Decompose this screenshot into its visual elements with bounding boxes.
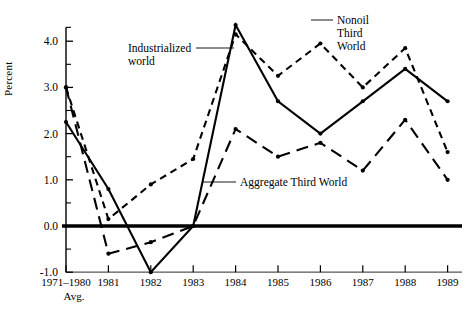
data-point bbox=[403, 118, 407, 122]
x-tick-label: 1985 bbox=[267, 276, 290, 288]
data-point bbox=[276, 74, 280, 78]
x-tick-label: 1982 bbox=[140, 276, 162, 288]
data-point bbox=[234, 127, 238, 131]
data-point bbox=[149, 270, 153, 274]
y-tick-label: 3.0 bbox=[44, 81, 59, 93]
data-point bbox=[149, 182, 153, 186]
series-line-aggregate-third-world bbox=[66, 87, 448, 253]
x-tick-label: 1983 bbox=[182, 276, 205, 288]
annotation-label-nonoil-third-world: Third bbox=[337, 27, 363, 39]
x-tick-label: 1986 bbox=[309, 276, 332, 288]
series-line-industrialized-world bbox=[66, 25, 448, 272]
data-point bbox=[318, 41, 322, 45]
data-point bbox=[361, 168, 365, 172]
chart-figure: Percent -1.00.01.02.03.04.01971–19801981… bbox=[0, 0, 468, 314]
x-tick-label: 1988 bbox=[394, 276, 417, 288]
data-point bbox=[191, 224, 195, 228]
y-tick-label: 0.0 bbox=[44, 220, 59, 232]
data-point bbox=[446, 99, 450, 103]
x-tick-label: 1987 bbox=[352, 276, 375, 288]
data-point bbox=[106, 252, 110, 256]
x-tick-label: 1981 bbox=[97, 276, 119, 288]
annotation-label-nonoil-third-world: World bbox=[337, 40, 366, 52]
data-point bbox=[234, 23, 238, 27]
data-point bbox=[403, 46, 407, 50]
y-tick-label: 1.0 bbox=[44, 174, 59, 186]
data-point bbox=[403, 67, 407, 71]
x-tick-label: 1971–1980 bbox=[41, 276, 91, 288]
y-tick-label: 2.0 bbox=[44, 128, 59, 140]
data-point bbox=[276, 155, 280, 159]
x-tick-label: 1984 bbox=[225, 276, 248, 288]
data-point bbox=[149, 240, 153, 244]
x-axis-sublabel-avg: Avg. bbox=[64, 290, 85, 302]
data-point bbox=[64, 120, 68, 124]
annotation-label-nonoil-third-world: Nonoil bbox=[337, 14, 369, 26]
annotation-group: IndustrializedworldNonoilThirdWorldAggre… bbox=[128, 14, 369, 189]
data-point bbox=[446, 178, 450, 182]
series-group bbox=[64, 23, 450, 274]
data-point bbox=[318, 132, 322, 136]
data-point bbox=[276, 99, 280, 103]
data-point bbox=[446, 150, 450, 154]
x-tick-label: 1989 bbox=[437, 276, 460, 288]
annotation-label-industrialized-world: Industrialized bbox=[128, 42, 191, 54]
data-point bbox=[318, 141, 322, 145]
data-point bbox=[234, 32, 238, 36]
data-point bbox=[361, 85, 365, 89]
data-point bbox=[191, 157, 195, 161]
axes-group: -1.00.01.02.03.04.01971–1980198119821983… bbox=[40, 27, 462, 302]
annotation-label-aggregate-third-world: Aggregate Third World bbox=[240, 176, 347, 189]
data-point bbox=[106, 187, 110, 191]
data-point bbox=[106, 217, 110, 221]
annotation-label-industrialized-world: world bbox=[128, 55, 155, 67]
chart-canvas: -1.00.01.02.03.04.01971–1980198119821983… bbox=[0, 0, 468, 314]
data-point bbox=[361, 99, 365, 103]
data-point bbox=[64, 85, 68, 89]
y-tick-label: 4.0 bbox=[44, 35, 59, 47]
